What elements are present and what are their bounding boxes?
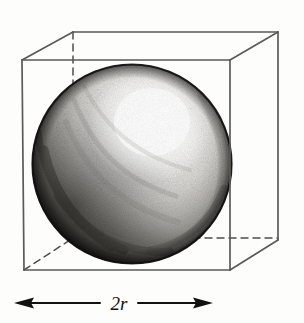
- edge-front-left: [22, 60, 24, 270]
- edge-depth-top-right: [230, 32, 278, 60]
- sphere-in-cube-figure: 2r: [0, 0, 304, 323]
- sphere-group: [32, 64, 232, 264]
- dimension-arrow-group: 2r: [14, 293, 213, 314]
- figure-container: 2r: [0, 0, 304, 323]
- edge-depth-top-left: [22, 32, 73, 60]
- dimension-label: 2r: [111, 293, 129, 314]
- arrow-left-icon: [14, 298, 34, 309]
- arrow-right-icon: [193, 298, 213, 309]
- hidden-edge-bottom-left-diagonal: [24, 238, 73, 270]
- edge-depth-bottom-right: [230, 240, 278, 270]
